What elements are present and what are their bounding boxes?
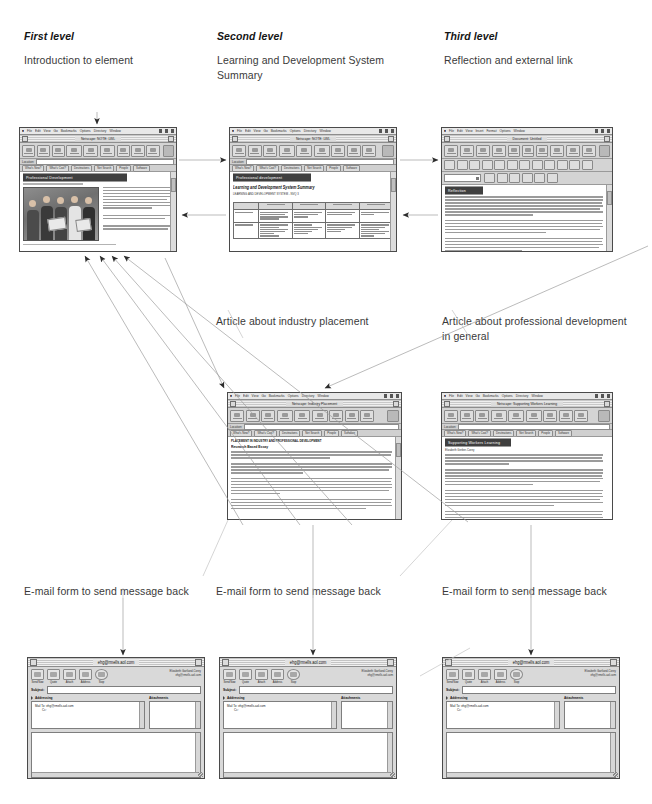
location-input[interactable] bbox=[36, 159, 174, 165]
forward-button[interactable] bbox=[37, 145, 50, 157]
addressing-scrollbar[interactable] bbox=[554, 702, 559, 728]
menu-bookmarks[interactable]: Bookmarks bbox=[271, 129, 287, 134]
body-vertical-scrollbar[interactable] bbox=[387, 733, 392, 773]
body-horizontal-scrollbar[interactable] bbox=[32, 772, 200, 777]
disclosure-triangle-icon[interactable] bbox=[31, 696, 33, 700]
menu-edit[interactable]: Edit bbox=[245, 129, 251, 134]
dir-destinations[interactable]: Destinations bbox=[281, 165, 302, 172]
home-button[interactable] bbox=[475, 410, 489, 422]
disclosure-triangle-icon[interactable] bbox=[446, 696, 448, 700]
zoom-box[interactable] bbox=[168, 136, 174, 142]
dir-software[interactable]: Software bbox=[133, 165, 150, 172]
addressing-header[interactable]: Addressing bbox=[446, 696, 560, 700]
address-button[interactable]: Address bbox=[271, 669, 284, 684]
close-box[interactable] bbox=[444, 401, 450, 407]
back-button[interactable] bbox=[230, 410, 244, 422]
dir-destinations[interactable]: Destinations bbox=[71, 165, 92, 172]
email-compose-window-3[interactable]: ehg@rmells.aol.com Send Now Quote Attach… bbox=[442, 657, 620, 779]
send-now-button[interactable]: Send Now bbox=[446, 669, 459, 684]
zoom-box[interactable] bbox=[387, 659, 394, 666]
quote-button[interactable]: Quote bbox=[239, 669, 252, 684]
body-vertical-scrollbar[interactable] bbox=[195, 733, 200, 773]
cut-button[interactable] bbox=[508, 145, 521, 157]
title-bar[interactable]: ehg@rmells.aol.com bbox=[220, 658, 396, 667]
netscape-logo-icon[interactable] bbox=[382, 145, 394, 157]
resize-grip[interactable] bbox=[613, 772, 618, 777]
netscape-logo-icon[interactable] bbox=[387, 410, 399, 422]
align-right-button[interactable] bbox=[509, 173, 520, 183]
link-button[interactable] bbox=[569, 160, 580, 170]
dir-whats-cool[interactable]: What's Cool? bbox=[254, 430, 277, 437]
zoom-box[interactable] bbox=[610, 659, 617, 666]
back-button[interactable] bbox=[444, 410, 458, 422]
forward-button[interactable] bbox=[460, 410, 474, 422]
find-button[interactable] bbox=[146, 145, 159, 157]
text-color-button[interactable] bbox=[507, 160, 518, 170]
title-bar[interactable]: Document: Untitled bbox=[442, 135, 612, 143]
menu-directory[interactable]: Directory bbox=[304, 129, 317, 134]
dir-people[interactable]: People bbox=[116, 165, 131, 172]
attachments-scrollbar[interactable] bbox=[195, 702, 200, 728]
mail-to-row[interactable]: Mail To: ehg@rmells.aol.com Cc: bbox=[224, 702, 336, 714]
address-button[interactable]: Address bbox=[79, 669, 92, 684]
images-button[interactable] bbox=[312, 410, 328, 422]
home-button[interactable] bbox=[263, 145, 277, 157]
bold-button[interactable] bbox=[469, 160, 480, 170]
addressing-box[interactable]: Mail To: ehg@rmells.aol.com Cc: bbox=[446, 701, 560, 729]
menu-options[interactable]: Options bbox=[288, 394, 299, 399]
address-button[interactable]: Address bbox=[494, 669, 507, 684]
edit-button[interactable] bbox=[66, 145, 81, 157]
close-box[interactable] bbox=[30, 659, 37, 666]
dir-destinations[interactable]: Destinations bbox=[279, 430, 300, 437]
nav-toolbar[interactable] bbox=[228, 408, 401, 424]
resize-grip[interactable] bbox=[390, 772, 395, 777]
netscape-logo-icon[interactable] bbox=[598, 410, 610, 422]
attachments-box[interactable] bbox=[341, 701, 393, 729]
find-button[interactable] bbox=[362, 145, 376, 157]
apple-menu-icon[interactable]: ■ bbox=[444, 129, 446, 134]
quote-button[interactable]: Quote bbox=[47, 669, 60, 684]
menu-insert[interactable]: Insert bbox=[475, 129, 483, 134]
menu-options[interactable]: Options bbox=[80, 129, 91, 134]
indent-button[interactable] bbox=[544, 160, 555, 170]
menu-go[interactable]: Go bbox=[53, 129, 57, 134]
email-compose-window-2[interactable]: ehg@rmells.aol.com Send Now Quote Attach… bbox=[219, 657, 397, 779]
mail-to-row[interactable]: Mail To: ehg@rmells.aol.com Cc: bbox=[32, 702, 144, 714]
close-box[interactable] bbox=[222, 659, 229, 666]
find-button[interactable] bbox=[566, 145, 580, 157]
home-button[interactable] bbox=[52, 145, 65, 157]
dir-whats-new[interactable]: What's New? bbox=[444, 430, 466, 437]
copy-button[interactable] bbox=[522, 145, 535, 157]
attachments-scrollbar[interactable] bbox=[387, 702, 392, 728]
composer-toolbar[interactable] bbox=[442, 143, 612, 159]
bullet-list-button[interactable] bbox=[519, 160, 530, 170]
page-content-area[interactable]: Supporting Workers Learning Elizabeth Ge… bbox=[442, 437, 612, 520]
menu-format[interactable]: Format bbox=[486, 129, 496, 134]
email-toolbar[interactable]: Send Now Quote Attach Address Stop Eliza… bbox=[220, 667, 396, 686]
menu-options[interactable]: Options bbox=[502, 394, 513, 399]
dir-whats-new[interactable]: What's New? bbox=[22, 165, 44, 172]
publish-button[interactable] bbox=[582, 145, 596, 157]
scrollbar-thumb[interactable] bbox=[171, 178, 176, 192]
print-button[interactable] bbox=[559, 410, 573, 422]
location-input[interactable] bbox=[458, 424, 610, 430]
format-toolbar[interactable] bbox=[442, 159, 612, 172]
open-button[interactable] bbox=[331, 145, 345, 157]
subject-row[interactable]: Subject: bbox=[220, 686, 396, 696]
menu-window[interactable]: Window bbox=[109, 129, 120, 134]
body-horizontal-scrollbar[interactable] bbox=[224, 772, 392, 777]
print-button[interactable] bbox=[345, 410, 359, 422]
menu-go[interactable]: Go bbox=[261, 394, 265, 399]
directory-bar[interactable]: What's New? What's Cool? Destinations Ne… bbox=[230, 165, 396, 172]
home-button[interactable] bbox=[261, 410, 275, 422]
menu-bar[interactable]: ■ File Edit View Go Bookmarks Options Di… bbox=[230, 128, 396, 135]
dir-software[interactable]: Software bbox=[555, 430, 572, 437]
dir-destinations[interactable]: Destinations bbox=[493, 430, 514, 437]
page-content-area[interactable]: Professional development Learning and De… bbox=[230, 172, 396, 252]
menu-directory[interactable]: Directory bbox=[94, 129, 107, 134]
menu-view[interactable]: View bbox=[44, 129, 51, 134]
back-button[interactable] bbox=[22, 145, 35, 157]
close-box[interactable] bbox=[445, 659, 452, 666]
forward-button[interactable] bbox=[246, 410, 260, 422]
close-box[interactable] bbox=[232, 136, 238, 142]
